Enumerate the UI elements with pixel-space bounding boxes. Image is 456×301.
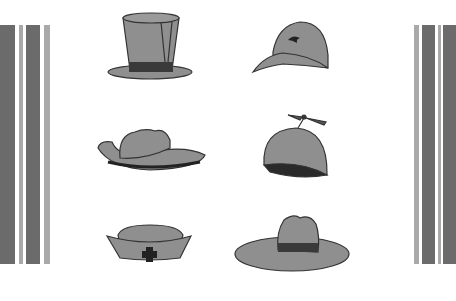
cowboy-hat-icon — [98, 130, 205, 170]
hats-illustration — [0, 0, 456, 301]
top-hat-icon — [108, 13, 192, 79]
sun-hat-icon — [235, 216, 349, 271]
baseball-cap-icon — [253, 22, 328, 72]
propeller-beanie-icon — [264, 115, 327, 177]
nurse-cap-icon — [107, 225, 191, 262]
